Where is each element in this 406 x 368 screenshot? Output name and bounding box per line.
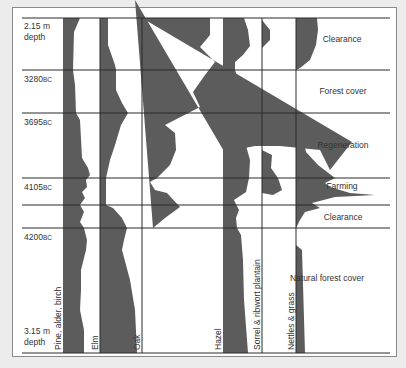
zone-label-clearance-lower: Clearance — [324, 212, 363, 222]
date-label-3695: 3695BC — [24, 117, 52, 127]
taxon-label-sorrel-ribwort: Sorrel & ribwort plantain — [252, 259, 262, 350]
zone-label-farming: Farming — [326, 181, 357, 191]
taxon-label-pine-alder-birch: Pine, alder, birch — [53, 286, 63, 350]
zone-label-clearance-top: Clearance — [323, 34, 362, 44]
top-depth-value: 2.15 m — [24, 21, 50, 31]
zone-label-forest-cover: Forest cover — [319, 86, 366, 96]
bottom-depth-unit: depth — [24, 337, 46, 347]
taxon-label-oak: Oak — [132, 334, 142, 350]
series-areas — [63, 0, 375, 353]
zone-label-natural-forest-cover: Natural forest cover — [290, 273, 364, 283]
taxon-label-nettles-grass: Nettles & grass — [286, 292, 296, 350]
taxon-label-hazel: Hazel — [213, 328, 223, 350]
zone-label-regeneration: Regeneration — [317, 140, 368, 150]
date-label-4200: 4200BC — [24, 232, 52, 242]
date-label-4105: 4105BC — [24, 182, 52, 192]
series-elm — [100, 18, 137, 353]
bottom-depth-value: 3.15 m — [24, 326, 50, 336]
date-label-3280: 3280BC — [24, 74, 52, 84]
pollen-diagram: 2.15 m depth 3.15 m depth 3280BC 3695BC … — [0, 0, 406, 368]
series-hazel — [223, 18, 250, 353]
series-pine-alder-birch — [63, 18, 90, 353]
top-depth-unit: depth — [24, 32, 46, 42]
taxon-label-elm: Elm — [90, 335, 100, 350]
